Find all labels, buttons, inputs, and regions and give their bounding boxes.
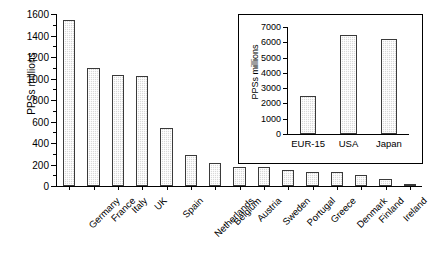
y-tick-major xyxy=(51,165,56,166)
bar xyxy=(355,175,368,186)
y-tick-label: 1400 xyxy=(27,30,49,41)
y-tick-major xyxy=(51,79,56,80)
x-tick xyxy=(361,186,362,190)
inset-bar xyxy=(381,39,397,134)
x-tick xyxy=(94,186,95,190)
y-tick-label: 200 xyxy=(32,159,49,170)
y-tick-major xyxy=(51,186,56,187)
inset-bar-chart: PPSs millions 01000200030004000500060007… xyxy=(238,14,423,164)
y-tick-label: 600 xyxy=(32,116,49,127)
y-tick-label: 0 xyxy=(43,181,49,192)
y-tick-minor xyxy=(53,175,56,176)
inset-x-tick-label: USA xyxy=(339,138,359,149)
bar xyxy=(87,68,100,186)
inset-y-tick-label: 0 xyxy=(276,129,281,139)
y-tick-minor xyxy=(53,154,56,155)
inset-y-tick-label: 5000 xyxy=(261,53,281,63)
bar xyxy=(112,75,125,186)
y-tick-minor xyxy=(53,89,56,90)
inset-y-tick xyxy=(283,58,287,59)
y-tick-major xyxy=(51,14,56,15)
y-tick-label: 1600 xyxy=(27,9,49,20)
y-tick-major xyxy=(51,100,56,101)
bar xyxy=(209,163,222,186)
inset-y-tick-label: 6000 xyxy=(261,37,281,47)
inset-y-tick xyxy=(283,134,287,135)
inset-y-tick-label: 7000 xyxy=(261,22,281,32)
bar xyxy=(379,179,392,186)
inset-x-tick-label: Japan xyxy=(376,138,402,149)
x-tick xyxy=(142,186,143,190)
x-tick xyxy=(386,186,387,190)
bar xyxy=(136,76,149,186)
y-tick-label: 400 xyxy=(32,138,49,149)
inset-y-tick xyxy=(283,42,287,43)
inset-y-tick-label: 4000 xyxy=(261,68,281,78)
x-tick xyxy=(313,186,314,190)
main-bar-chart: PPSs millions 02004006008001000120014001… xyxy=(0,0,429,273)
y-tick-major xyxy=(51,57,56,58)
y-tick-label: 1200 xyxy=(27,52,49,63)
inset-y-tick xyxy=(283,103,287,104)
x-tick-label: Ireland xyxy=(400,195,428,223)
inset-bar xyxy=(340,35,356,134)
x-tick xyxy=(167,186,168,190)
y-tick-minor xyxy=(53,46,56,47)
y-tick-minor xyxy=(53,132,56,133)
x-tick-label: Spain xyxy=(180,195,205,220)
inset-x-axis-line xyxy=(287,134,409,135)
bar xyxy=(282,170,295,186)
y-tick-minor xyxy=(53,68,56,69)
bar xyxy=(185,155,198,186)
inset-y-tick xyxy=(283,73,287,74)
y-tick-minor xyxy=(53,25,56,26)
inset-plot-area: 01000200030004000500060007000 EUR-15USAJ… xyxy=(287,27,409,135)
x-tick xyxy=(69,186,70,190)
bar xyxy=(63,20,76,186)
bar xyxy=(331,172,344,186)
x-tick xyxy=(118,186,119,190)
x-tick xyxy=(215,186,216,190)
inset-y-tick-label: 2000 xyxy=(261,98,281,108)
x-tick xyxy=(337,186,338,190)
bar xyxy=(258,167,271,186)
y-tick-major xyxy=(51,143,56,144)
y-tick-major xyxy=(51,122,56,123)
y-tick-label: 800 xyxy=(32,95,49,106)
x-tick xyxy=(191,186,192,190)
inset-y-tick-label: 1000 xyxy=(261,114,281,124)
bar xyxy=(233,167,246,186)
x-tick-label: UK xyxy=(152,195,169,212)
bar xyxy=(160,128,173,186)
inset-y-axis-title: PPSs millions xyxy=(250,30,260,114)
inset-y-tick xyxy=(283,88,287,89)
y-tick-major xyxy=(51,36,56,37)
y-tick-label: 1000 xyxy=(27,73,49,84)
inset-bar xyxy=(300,96,316,134)
x-tick xyxy=(410,186,411,190)
x-tick xyxy=(264,186,265,190)
bar xyxy=(306,172,319,187)
inset-y-tick xyxy=(283,119,287,120)
inset-x-tick-label: EUR-15 xyxy=(291,138,325,149)
inset-y-tick xyxy=(283,27,287,28)
x-tick xyxy=(288,186,289,190)
inset-bar-series xyxy=(288,27,409,134)
y-tick-minor xyxy=(53,111,56,112)
inset-y-tick-label: 3000 xyxy=(261,83,281,93)
x-tick xyxy=(240,186,241,190)
